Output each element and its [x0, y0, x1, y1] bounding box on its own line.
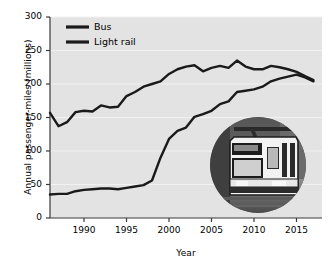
y-tick-label: 250 — [14, 45, 42, 55]
x-tick-label: 2015 — [277, 225, 317, 235]
x-tick-label: 2005 — [192, 225, 232, 235]
legend-label-light-rail: Light rail — [94, 36, 136, 47]
x-tick-label: 1990 — [64, 225, 104, 235]
y-tick-label: 200 — [14, 78, 42, 88]
y-tick-label: 50 — [14, 179, 42, 189]
x-tick-label: 2010 — [234, 225, 274, 235]
x-tick-label: 2000 — [149, 225, 189, 235]
y-tick-label: 300 — [14, 11, 42, 21]
y-tick-label: 0 — [14, 212, 42, 222]
y-tick-label: 100 — [14, 145, 42, 155]
legend-label-bus: Bus — [94, 21, 112, 32]
x-tick-label: 1995 — [107, 225, 147, 235]
chart-figure: Annual passenger-miles (millions) Year 0… — [0, 0, 334, 270]
x-axis-label: Year — [50, 248, 322, 258]
y-tick-label: 150 — [14, 112, 42, 122]
light-rail-photo — [210, 117, 306, 213]
